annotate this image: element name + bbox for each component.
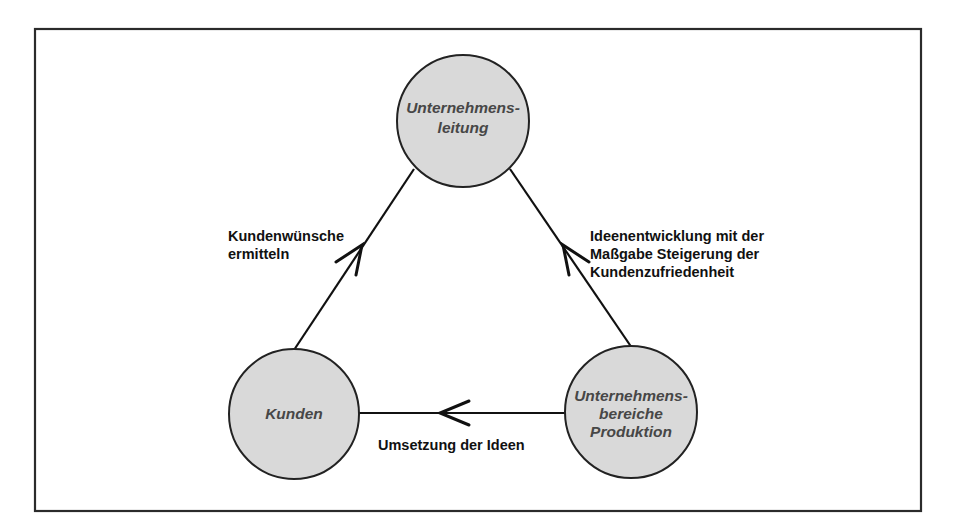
cycle-diagram: Unternehmens- leitung Kunden Unternehmen… <box>0 0 957 528</box>
edge-label-umsetzung: Umsetzung der Ideen <box>378 437 525 453</box>
edge-label-ideenentwicklung: Ideenentwicklung mit der Maßgabe Steiger… <box>590 228 764 280</box>
node-label-line: Unternehmens- <box>406 99 520 116</box>
arrow-up-right-icon <box>336 245 362 275</box>
edge-label-kundenwuensche: Kundenwünsche ermitteln <box>228 228 344 262</box>
node-label-line: Produktion <box>590 423 672 440</box>
arrow-up-left-icon <box>563 245 589 275</box>
edge-kunden-to-leitung <box>294 169 414 350</box>
node-unternehmensleitung: Unternehmens- leitung <box>397 55 529 187</box>
edge-label-line: Kundenwünsche <box>228 228 344 244</box>
node-unternehmensbereiche-produktion: Unternehmens- bereiche Produktion <box>565 346 697 478</box>
node-kunden: Kunden <box>229 349 359 479</box>
node-label-line: leitung <box>438 119 489 136</box>
edge-label-line: Kundenzufriedenheit <box>590 264 734 280</box>
edge-label-line: ermitteln <box>228 246 289 262</box>
edge-produktion-to-kunden <box>359 401 566 425</box>
node-label-line: Kunden <box>265 405 323 422</box>
edge-line-left <box>294 169 414 350</box>
edge-label-line: Umsetzung der Ideen <box>378 437 525 453</box>
edge-label-line: Maßgabe Steigerung der <box>590 246 760 262</box>
node-label-line: bereiche <box>599 405 663 422</box>
node-label-line: Unternehmens- <box>574 387 688 404</box>
edge-label-line: Ideenentwicklung mit der <box>590 228 764 244</box>
